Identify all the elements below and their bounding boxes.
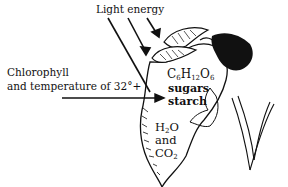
light-energy-label: Light energy [96,4,164,15]
photosynthesis-diagram: Light energy Chlorophyll and temperature… [0,0,288,187]
upper-leaf [164,28,208,48]
sugars-label: sugars [168,83,209,94]
chlorophyll-arrow [62,94,164,102]
glucose-formula: C6H12O6 [167,68,214,82]
temperature-label: and temperature of 32°+ [7,81,141,92]
chlorophyll-label: Chlorophyll [7,67,69,78]
arrow-head-2 [141,47,150,55]
arrow-head-3 [152,29,160,37]
leaf-bud-illustration [0,0,288,187]
dark-lobe [211,33,252,70]
stem [232,96,274,170]
leaf-body [140,44,227,187]
carbon-dioxide-label: CO2 [155,148,178,161]
starch-label: starch [168,96,207,107]
mid-leaf [152,47,196,63]
and-label: and [155,135,177,147]
